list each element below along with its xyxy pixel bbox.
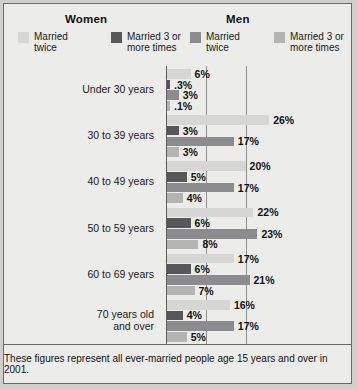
bar-stack: 16%4%17%5% [167,300,351,343]
chart-group: 50 to 59 years22%6%23%8% [4,205,351,251]
bar-row: 6% [167,69,351,79]
women-heading: Women [65,13,107,25]
chart-group: 40 to 49 years20%5%17%4% [4,158,351,204]
bar [167,300,230,310]
bar [167,126,179,136]
chart-header: Women Men Married twice Married 3 or mor… [4,4,351,66]
bar-row: 6% [167,218,351,228]
bar [167,286,195,296]
bar [167,80,170,90]
bar [167,264,191,274]
bar [167,90,179,100]
bar-value-label: 4% [187,192,202,204]
bar [167,69,191,79]
men-heading: Men [226,13,250,25]
bar-row: 21% [167,275,351,285]
bar-stack: 22%6%23%8% [167,208,351,251]
chart-group: Under 30 years6%.3%3%.1% [4,66,351,112]
category-label: 50 to 59 years [87,222,154,234]
bar-row: 26% [167,115,351,125]
bar [167,115,269,125]
bar-row: 17% [167,137,351,147]
bar-stack: 17%6%21%7% [167,254,351,297]
bar [167,183,234,193]
bar-value-label: .1% [174,100,192,112]
bar-value-label: 22% [257,206,278,218]
bar-stack: 6%.3%3%.1% [167,69,351,112]
legend-label-men-three-plus: Married 3 or more times [290,31,344,53]
bar-row: .1% [167,101,351,111]
bar-value-label: 5% [191,171,206,183]
chart-group: 60 to 69 years17%6%21%7% [4,251,351,297]
footnote-text: These figures represent all ever-married… [4,353,351,375]
bar-value-label: 8% [202,238,217,250]
bar-value-label: 21% [254,274,275,286]
bar-row: 4% [167,311,351,321]
bar-value-label: 6% [195,217,210,229]
bar [167,240,198,250]
bar-row: 20% [167,161,351,171]
bar-row: 17% [167,321,351,331]
bar-row: 22% [167,208,351,218]
chart-panel: Women Men Married twice Married 3 or mor… [3,3,352,384]
bar-value-label: 17% [238,253,259,265]
category-label: 60 to 69 years [87,268,154,280]
legend-label-women-three-plus: Married 3 or more times [127,31,181,53]
bar-row: 17% [167,183,351,193]
bar [167,229,257,239]
legend-label-women-twice: Married twice [34,31,68,53]
bar-stack: 20%5%17%4% [167,161,351,204]
bar-row: 7% [167,286,351,296]
bar-value-label: 5% [191,331,206,343]
bar [167,321,234,331]
bar-row: 3% [167,126,351,136]
bar [167,218,191,228]
bar-row: 5% [167,172,351,182]
legend-swatch-men-three-plus [274,32,285,43]
bar-value-label: 26% [273,114,294,126]
bar-row: 5% [167,332,351,342]
legend-label-men-twice: Married twice [206,31,240,53]
bar-value-label: 17% [238,135,259,147]
bar [167,147,179,157]
bar-value-label: 16% [234,299,255,311]
legend-item-women-three-plus: Married 3 or more times [111,31,181,53]
bar [167,275,250,285]
bar [167,311,183,321]
bar [167,332,187,342]
bar-value-label: 3% [183,146,198,158]
chart-footnote: These figures represent all ever-married… [4,344,351,383]
bar-value-label: 23% [261,228,282,240]
chart-group: 70 years old and over16%4%17%5% [4,297,351,343]
bar [167,101,170,111]
bar [167,137,234,147]
bar-row: 8% [167,240,351,250]
category-label: 40 to 49 years [87,175,154,187]
bar-row: 6% [167,264,351,274]
bar-row: .3% [167,80,351,90]
legend-swatch-men-twice [190,32,201,43]
bar [167,254,234,264]
bar-value-label: 4% [187,309,202,321]
bar-value-label: 7% [199,285,214,297]
legend-swatch-women-three-plus [111,32,122,43]
bar-value-label: 6% [195,263,210,275]
bar [167,161,246,171]
bar-row: 23% [167,229,351,239]
bar [167,193,183,203]
bar [167,208,253,218]
chart-plot-area: Under 30 years6%.3%3%.1%30 to 39 years26… [4,66,351,344]
bar-value-label: 3% [183,125,198,137]
legend-swatch-women-twice [18,32,29,43]
bar-value-label: 6% [195,68,210,80]
bar-stack: 26%3%17%3% [167,115,351,158]
legend-item-men-three-plus: Married 3 or more times [274,31,344,53]
bar-value-label: 20% [250,160,271,172]
category-label: Under 30 years [82,83,154,95]
legend-item-men-twice: Married twice [190,31,240,53]
bar-row: 17% [167,254,351,264]
bar-row: 3% [167,147,351,157]
bar-row: 4% [167,193,351,203]
legend-item-women-twice: Married twice [18,31,68,53]
bar-row: 16% [167,300,351,310]
